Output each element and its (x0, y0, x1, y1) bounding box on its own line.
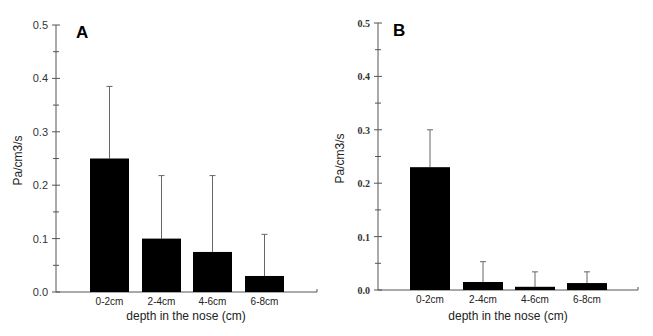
bar (515, 287, 555, 290)
x-tick-label: 2-4cm (469, 294, 497, 305)
y-tick-label: 0.4 (33, 72, 48, 84)
y-tick-label: 0.2 (358, 178, 371, 189)
y-tick-label: 0.1 (33, 233, 48, 245)
y-tick-label: 0.0 (358, 285, 371, 296)
y-tick-label: 0.5 (33, 19, 48, 31)
y-tick-label: 0.0 (33, 286, 48, 298)
bar (90, 159, 129, 293)
bar (245, 276, 284, 292)
panel-label: A (76, 23, 88, 42)
y-tick-label: 0.5 (358, 18, 371, 29)
x-tick-label: 6-8cm (573, 294, 601, 305)
y-tick-label: 0.4 (358, 71, 371, 82)
bar (567, 283, 607, 290)
chart-panel-b: 0.00.10.20.30.40.50-2cm2-4cm4-6cm6-8cmde… (333, 18, 638, 323)
x-axis-title: depth in the nose (cm) (126, 309, 245, 323)
y-tick-label: 0.3 (33, 126, 48, 138)
bar (463, 282, 503, 290)
x-tick-label: 0-2cm (416, 294, 444, 305)
chart-panel-a: 0.00.10.20.30.40.50-2cm2-4cm4-6cm6-8cmde… (11, 19, 317, 323)
bar (410, 167, 450, 290)
bar (142, 239, 181, 292)
y-tick-label: 0.3 (358, 125, 371, 136)
figure: 0.00.10.20.30.40.50-2cm2-4cm4-6cm6-8cmde… (0, 0, 653, 336)
bar (193, 252, 232, 292)
panel-label: B (393, 21, 405, 40)
x-axis-title: depth in the nose (cm) (448, 309, 567, 323)
x-tick-label: 0-2cm (96, 296, 124, 307)
y-tick-label: 0.2 (33, 179, 48, 191)
x-tick-label: 4-6cm (521, 294, 549, 305)
y-axis-title: Pa/cm3/s (11, 135, 25, 185)
y-axis-title: Pa/cm3/s (333, 133, 347, 183)
x-tick-label: 6-8cm (251, 296, 279, 307)
x-tick-label: 4-6cm (199, 296, 227, 307)
x-tick-label: 2-4cm (148, 296, 176, 307)
y-tick-label: 0.1 (358, 232, 371, 243)
